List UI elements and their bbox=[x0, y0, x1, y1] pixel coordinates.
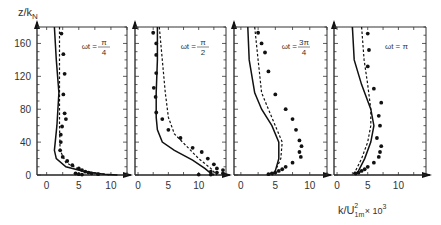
x-tick-label: 5 bbox=[76, 180, 82, 191]
data-point bbox=[273, 171, 277, 175]
y-tick-label: 40 bbox=[20, 137, 32, 148]
data-point bbox=[299, 155, 303, 159]
panel-2: 0510ωt = π2 bbox=[132, 20, 232, 191]
data-point bbox=[379, 101, 383, 105]
data-point bbox=[197, 173, 201, 177]
y-axis-label: z/kN bbox=[18, 6, 38, 21]
data-point bbox=[179, 136, 183, 140]
data-point bbox=[96, 172, 100, 176]
svg-text:π: π bbox=[101, 38, 107, 47]
data-point bbox=[152, 86, 156, 90]
data-point bbox=[291, 161, 295, 165]
omega-t-annotation: ωt = bbox=[181, 42, 197, 51]
data-point bbox=[377, 114, 381, 118]
data-point bbox=[256, 31, 260, 35]
svg-text:4: 4 bbox=[102, 48, 107, 57]
data-point bbox=[284, 107, 288, 111]
panel-1: 051004080120160ωt = π4 bbox=[14, 20, 133, 191]
figure: 051004080120160ωt = π40510ωt = π20510ωt … bbox=[0, 0, 441, 225]
data-point bbox=[260, 42, 264, 46]
x-tick-label: 5 bbox=[273, 180, 279, 191]
x-tick-label: 5 bbox=[365, 180, 371, 191]
x-tick-label: 10 bbox=[393, 180, 405, 191]
data-point bbox=[372, 161, 376, 165]
x-tick-label: 0 bbox=[44, 180, 50, 191]
data-point bbox=[209, 173, 213, 177]
svg-text:4: 4 bbox=[302, 48, 307, 57]
x-tick-label: 5 bbox=[166, 180, 172, 191]
data-point bbox=[64, 117, 68, 121]
data-point bbox=[59, 133, 63, 137]
data-point bbox=[191, 146, 195, 150]
data-point bbox=[63, 111, 67, 115]
data-point bbox=[154, 42, 158, 46]
data-point bbox=[59, 140, 63, 144]
data-point bbox=[375, 136, 379, 140]
omega-t-annotation: ωt = bbox=[82, 42, 98, 51]
data-point bbox=[294, 128, 298, 132]
panels: 051004080120160ωt = π40510ωt = π20510ωt … bbox=[14, 20, 432, 191]
y-tick-label: 120 bbox=[14, 71, 31, 82]
svg-text:π: π bbox=[200, 38, 206, 47]
data-point bbox=[70, 163, 74, 167]
svg-text:2: 2 bbox=[201, 48, 206, 57]
data-point bbox=[206, 157, 210, 161]
x-tick-label: 10 bbox=[193, 180, 205, 191]
data-point bbox=[60, 32, 64, 36]
data-point bbox=[366, 65, 370, 69]
data-point bbox=[61, 155, 65, 159]
data-point bbox=[221, 168, 225, 172]
data-point bbox=[263, 51, 267, 55]
data-point bbox=[160, 117, 164, 121]
x-tick-label: 10 bbox=[304, 180, 316, 191]
data-point bbox=[372, 87, 376, 91]
data-point bbox=[74, 171, 78, 175]
x-axis-label: k/U1m2 × 103 bbox=[338, 202, 386, 218]
data-point bbox=[154, 71, 158, 75]
y-tick-label: 160 bbox=[14, 38, 31, 49]
data-point bbox=[63, 72, 67, 76]
data-point bbox=[366, 165, 370, 169]
data-point bbox=[87, 171, 91, 175]
data-point bbox=[77, 167, 81, 171]
data-point bbox=[58, 148, 62, 152]
data-point bbox=[83, 170, 87, 174]
data-point bbox=[379, 144, 383, 148]
data-point bbox=[61, 52, 65, 56]
data-point bbox=[367, 48, 371, 52]
data-point bbox=[267, 172, 271, 176]
data-point bbox=[298, 139, 302, 143]
panel-4: 0510ωt = π bbox=[331, 20, 432, 191]
data-point bbox=[284, 165, 288, 169]
data-point bbox=[300, 144, 304, 148]
x-tick-label: 0 bbox=[135, 180, 141, 191]
data-point bbox=[273, 93, 277, 97]
x-tick-label: 0 bbox=[334, 180, 340, 191]
data-point bbox=[267, 70, 271, 74]
data-point bbox=[80, 168, 84, 172]
data-point bbox=[61, 93, 65, 97]
data-point bbox=[377, 155, 381, 159]
data-point bbox=[215, 167, 219, 171]
y-tick-label: 80 bbox=[20, 104, 32, 115]
x-tick-label: 10 bbox=[105, 180, 117, 191]
panel-3: 0510ωt = 3π4 bbox=[231, 20, 333, 191]
data-point bbox=[366, 32, 370, 36]
data-point bbox=[280, 167, 284, 171]
data-point bbox=[215, 171, 219, 175]
data-point bbox=[90, 171, 94, 175]
data-point bbox=[270, 171, 274, 175]
data-point bbox=[166, 128, 170, 132]
data-point bbox=[154, 53, 158, 57]
data-point bbox=[154, 95, 158, 99]
data-point bbox=[77, 172, 81, 176]
data-point bbox=[80, 173, 84, 177]
data-point bbox=[298, 150, 302, 154]
solid-curve bbox=[248, 27, 279, 175]
data-point bbox=[378, 124, 382, 128]
y-tick-label: 0 bbox=[25, 170, 31, 181]
omega-t-annotation: ωt = bbox=[282, 42, 298, 51]
data-point bbox=[212, 162, 216, 166]
data-point bbox=[378, 150, 382, 154]
data-point bbox=[354, 171, 358, 175]
